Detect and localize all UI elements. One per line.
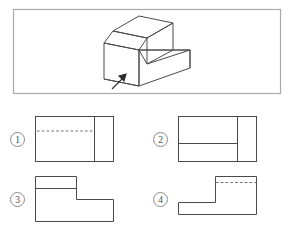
option-2-number[interactable]: 2 — [153, 132, 168, 147]
option-1-drawing[interactable] — [36, 117, 114, 162]
option-2-outline — [179, 117, 257, 162]
question-canvas: 1 2 3 4 — [0, 0, 292, 229]
options-graphics — [0, 0, 292, 229]
option-4-number[interactable]: 4 — [153, 192, 168, 207]
option-3-drawing[interactable] — [36, 177, 114, 222]
option-2-drawing[interactable] — [179, 117, 257, 162]
option-1-number[interactable]: 1 — [10, 132, 25, 147]
option-1-outline — [36, 117, 114, 162]
option-4-drawing[interactable] — [179, 177, 257, 215]
option-3-number[interactable]: 3 — [10, 192, 25, 207]
option-3-outline — [36, 177, 114, 222]
